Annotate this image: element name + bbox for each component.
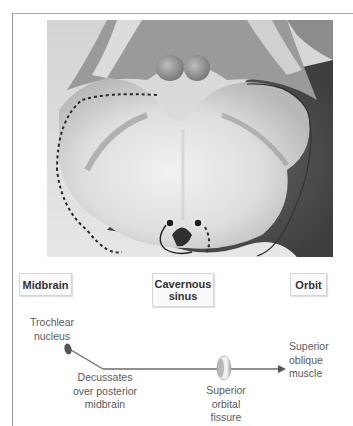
label-superior-orbital-fissure: Superior orbital fissure — [196, 384, 256, 425]
label-decussation: Decussates over posterior midbrain — [66, 371, 144, 412]
superior-orbital-fissure-ring-icon — [217, 356, 231, 380]
label-superior-oblique-muscle: Superior oblique muscle — [289, 340, 339, 381]
trochlear-nucleus-icon — [63, 343, 73, 355]
label-trochlear-nucleus: Trochlear nucleus — [24, 316, 80, 343]
